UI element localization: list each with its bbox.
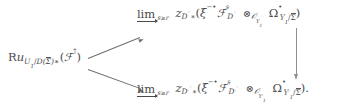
top-colimit-arrow-icon (137, 20, 157, 24)
bottom-colimit-arrow-icon (137, 95, 157, 99)
arrow-to-top-colimit-shaft (88, 37, 140, 59)
bottom-colimit-symbol: lim (137, 84, 157, 99)
arrow-to-bottom-colimit-shaft (88, 69, 141, 89)
top-paren-close: ) (296, 6, 301, 20)
bottom-omega: Ω (272, 81, 282, 95)
bottom-sheaf-exponent: s (227, 78, 230, 86)
top-sheaf-subscript: D◦ (227, 10, 236, 19)
math-diagram-figure: RuU1/D(Σ)∗(ℱ†) lim s≥r zD◦∗(ξ−•ℱsD◦ ⊗𝒪Y1… (0, 0, 337, 112)
bottom-xi-exponent: −• (208, 78, 218, 86)
source-operator: R (8, 50, 17, 64)
top-tensor-subscript: 𝒪Y1 (251, 10, 262, 19)
bottom-xi: ξ (201, 81, 207, 95)
arrow-to-top-colimit-head (138, 37, 144, 43)
top-omega: Ω (269, 6, 279, 20)
bottom-sheaf-subscript: D′◦ (229, 85, 239, 94)
source-u: u (17, 50, 24, 64)
source-subscript: U1/D(Σ)∗ (24, 54, 59, 63)
bottom-colimit-index: s≥r (158, 89, 169, 97)
top-sheaf-exponent: s (226, 3, 229, 11)
bottom-tensor-icon: ⊗ (246, 83, 254, 94)
source-term: RuU1/D(Σ)∗(ℱ†) (8, 52, 81, 64)
bottom-pushforward-subscript: D′◦∗ (182, 85, 197, 94)
arrow-top-to-bottom-head (294, 74, 298, 80)
arrow-top-to-bottom-shaft (296, 28, 297, 76)
bottom-sheaf: ℱ (218, 82, 227, 95)
top-colimit-index: s≥r (158, 14, 169, 22)
bottom-colimit-expression: lim s≥r zD′◦∗(ξ−•ℱsD′◦ ⊗𝒪Y′1 Ω•Y′1/Σ). (137, 83, 309, 99)
top-colimit-expression: lim s≥r zD◦∗(ξ−•ℱsD◦ ⊗𝒪Y1 Ω•Y1/Σ) (137, 8, 300, 24)
top-tensor-icon: ⊗ (243, 8, 251, 19)
bottom-trailing-punctuation: . (305, 81, 309, 95)
bottom-omega-exponent: • (282, 78, 286, 86)
top-colimit-symbol: lim (137, 9, 157, 24)
top-omega-exponent: • (278, 3, 282, 11)
bottom-omega-subscript: Y′1/Σ (283, 85, 300, 94)
top-sheaf: ℱ (217, 7, 226, 20)
top-omega-subscript: Y1/Σ (280, 10, 296, 19)
source-argument: (ℱ†) (60, 50, 81, 64)
top-xi-exponent: −• (206, 3, 216, 11)
top-pushforward-subscript: D◦∗ (182, 10, 196, 19)
bottom-tensor-subscript: 𝒪Y′1 (254, 85, 266, 94)
